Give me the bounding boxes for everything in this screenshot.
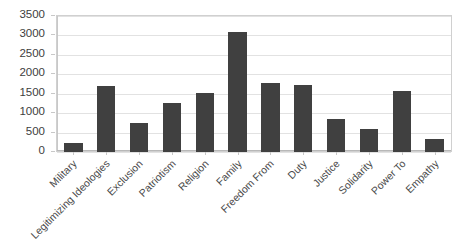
y-tick-label: 500 xyxy=(26,126,52,138)
bar xyxy=(327,119,345,152)
bar xyxy=(196,93,214,152)
x-tick-mark xyxy=(435,152,436,155)
y-tick-label: 2000 xyxy=(19,67,52,79)
x-tick-mark xyxy=(238,152,239,155)
y-tick-label: 1500 xyxy=(19,87,52,99)
x-tick-mark xyxy=(73,152,74,155)
bar xyxy=(130,123,148,152)
bar xyxy=(425,139,443,152)
bar xyxy=(360,129,378,152)
y-tick-mark xyxy=(51,54,55,55)
x-tick-label: Religion xyxy=(176,158,210,192)
x-tick-mark xyxy=(139,152,140,155)
bar xyxy=(294,85,312,152)
x-tick-label: Family xyxy=(214,158,243,187)
bars-group xyxy=(57,16,451,152)
bar xyxy=(393,91,411,152)
y-tick-label: 3000 xyxy=(19,28,52,40)
bar xyxy=(228,32,246,152)
x-tick-label: Duty xyxy=(286,158,309,181)
y-tick-mark xyxy=(51,73,55,74)
x-tick-label: Solidarity xyxy=(336,158,374,196)
y-tick-mark xyxy=(51,34,55,35)
y-tick-mark xyxy=(51,132,55,133)
x-tick-mark xyxy=(402,152,403,155)
bar xyxy=(163,103,181,152)
y-tick-label: 1000 xyxy=(19,106,52,118)
x-tick-mark xyxy=(369,152,370,155)
y-axis: 0500100015002000250030003500 xyxy=(0,15,52,152)
y-tick-mark xyxy=(51,93,55,94)
x-tick-mark xyxy=(336,152,337,155)
x-tick-label: Empathy xyxy=(403,158,440,195)
bar xyxy=(97,86,115,152)
x-tick-mark xyxy=(303,152,304,155)
x-tick-mark xyxy=(172,152,173,155)
x-tick-label: Justice xyxy=(311,158,342,189)
x-tick-label: Power To xyxy=(369,158,407,196)
y-tick-label: 2500 xyxy=(19,48,52,60)
x-tick-mark xyxy=(205,152,206,155)
x-tick-label: Military xyxy=(48,158,79,189)
y-tick-label: 3500 xyxy=(19,9,52,21)
bar-chart: 0500100015002000250030003500 MilitaryLeg… xyxy=(0,0,462,250)
x-axis-labels: MilitaryLegitimizing IdeologiesExclusion… xyxy=(0,152,462,250)
y-tick-mark xyxy=(51,112,55,113)
bar xyxy=(261,83,279,152)
x-tick-mark xyxy=(106,152,107,155)
x-tick-mark xyxy=(270,152,271,155)
y-tick-mark xyxy=(51,15,55,16)
bar xyxy=(64,143,82,152)
